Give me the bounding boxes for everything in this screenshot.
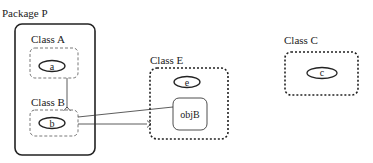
object-b-label: b: [50, 118, 55, 129]
object-c-label: c: [320, 67, 325, 78]
class-c-label: Class C: [284, 34, 318, 46]
class-a-label: Class A: [31, 33, 65, 45]
package-p-label: Package P: [2, 7, 48, 19]
object-objb-label: objB: [180, 109, 200, 120]
object-a-label: a: [50, 61, 55, 72]
class-e-label: Class E: [150, 54, 184, 66]
diagram-canvas: Package P Class A a Class B b Class E e …: [0, 0, 373, 163]
connector-b-objb: [78, 107, 173, 117]
object-e-label: e: [185, 77, 190, 88]
class-b-label: Class B: [31, 96, 65, 108]
